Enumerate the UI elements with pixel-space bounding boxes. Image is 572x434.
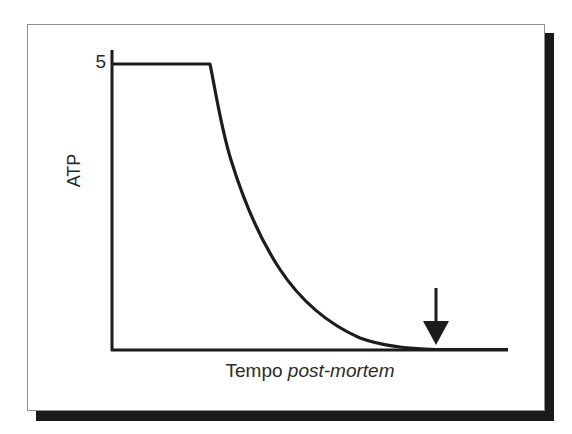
- atp-decay-curve: [112, 64, 508, 350]
- figure-root: 5 ATP Tempo post-mortem: [0, 0, 572, 434]
- rigor-onset-arrow-annotation: [423, 288, 449, 345]
- y-axis-tick-label-5: 5: [82, 52, 106, 71]
- x-axis-title-emphasis: post-mortem: [288, 360, 395, 381]
- arrow-head-icon: [423, 321, 449, 345]
- x-axis-title-prefix: Tempo: [226, 360, 288, 381]
- x-axis-title: Tempo post-mortem: [112, 360, 508, 382]
- y-axis-title: ATP: [64, 131, 85, 211]
